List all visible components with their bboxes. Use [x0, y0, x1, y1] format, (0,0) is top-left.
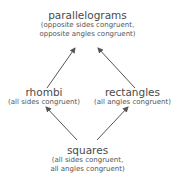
node-description: opposite angles congruent): [0, 30, 175, 39]
arrow-rectangles-to-parallelograms: [98, 48, 135, 88]
arrow-rhombi-to-parallelograms: [47, 48, 75, 88]
node-description: (all angles congruent): [90, 98, 175, 107]
node-rectangles: rectangles (all angles congruent): [90, 86, 175, 107]
node-title: squares: [0, 144, 175, 156]
node-squares: squares (all sides congruent, all angles…: [0, 144, 175, 174]
node-description: all angles congruent): [0, 165, 175, 174]
node-title: rectangles: [90, 86, 175, 98]
arrow-squares-to-rhombi: [46, 107, 77, 140]
arrow-squares-to-rectangles: [97, 107, 128, 140]
node-description: (all sides congruent): [0, 98, 88, 107]
node-parallelograms: parallelograms (opposite sides congruent…: [0, 9, 175, 39]
node-description: (opposite sides congruent,: [0, 21, 175, 30]
node-description: (all sides congruent,: [0, 156, 175, 165]
node-title: rhombi: [0, 86, 88, 98]
node-title: parallelograms: [0, 9, 175, 21]
node-rhombi: rhombi (all sides congruent): [0, 86, 88, 107]
